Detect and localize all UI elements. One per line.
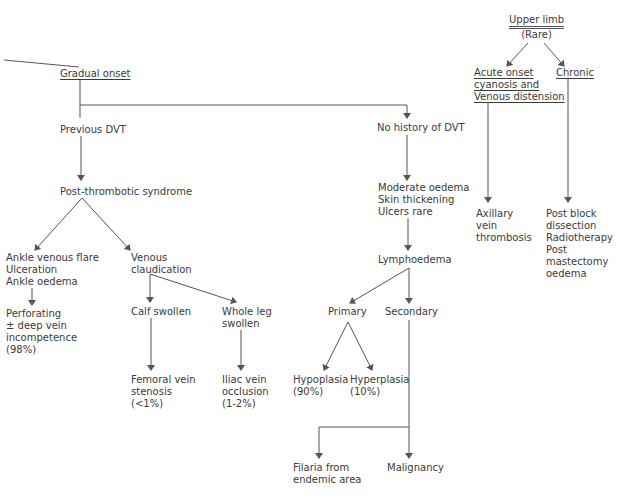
node-malignancy: Malignancy: [387, 462, 444, 474]
node-gradual-onset: Gradual onset: [60, 68, 131, 80]
node-venous-claudication: Venous claudication: [131, 252, 192, 276]
node-primary: Primary: [328, 306, 367, 318]
node-hyperplasia: Hyperplasia (10%): [350, 374, 409, 398]
node-lymph-symptoms: Moderate oedema Skin thickening Ulcers r…: [378, 182, 469, 218]
node-calf-swollen: Calf swollen: [131, 306, 191, 318]
flowchart: Gradual onset Previous DVT Post-thrombot…: [0, 0, 634, 502]
node-perforating-incompetence: Perforating ± deep vein incompetence (98…: [6, 308, 77, 356]
node-whole-leg-swollen: Whole leg swollen: [222, 306, 272, 330]
node-no-history-dvt: No history of DVT: [377, 122, 465, 134]
node-chronic-causes: Post block dissection Radiotherapy Post …: [546, 208, 613, 280]
node-acute-onset: Acute onset cyanosis and Venous distensi…: [474, 67, 565, 103]
node-ankle-symptoms: Ankle venous flare Ulceration Ankle oede…: [6, 252, 99, 288]
node-axillary-vein-thrombosis: Axillary vein thrombosis: [476, 208, 532, 244]
node-upper-limb: Upper limb (Rare): [509, 14, 564, 41]
node-lymphoedema: Lymphoedema: [378, 254, 452, 266]
node-chronic: Chronic: [556, 67, 594, 79]
node-previous-dvt: Previous DVT: [60, 124, 126, 136]
node-hypoplasia: Hypoplasia (90%): [293, 374, 348, 398]
node-iliac-vein-occlusion: Iliac vein occlusion (1-2%): [222, 374, 269, 410]
node-secondary: Secondary: [385, 306, 438, 318]
node-femoral-vein-stenosis: Femoral vein stenosis (<1%): [131, 374, 196, 410]
node-filaria: Filaria from endemic area: [293, 462, 362, 486]
node-post-thrombotic-syndrome: Post-thrombotic syndrome: [60, 186, 192, 198]
